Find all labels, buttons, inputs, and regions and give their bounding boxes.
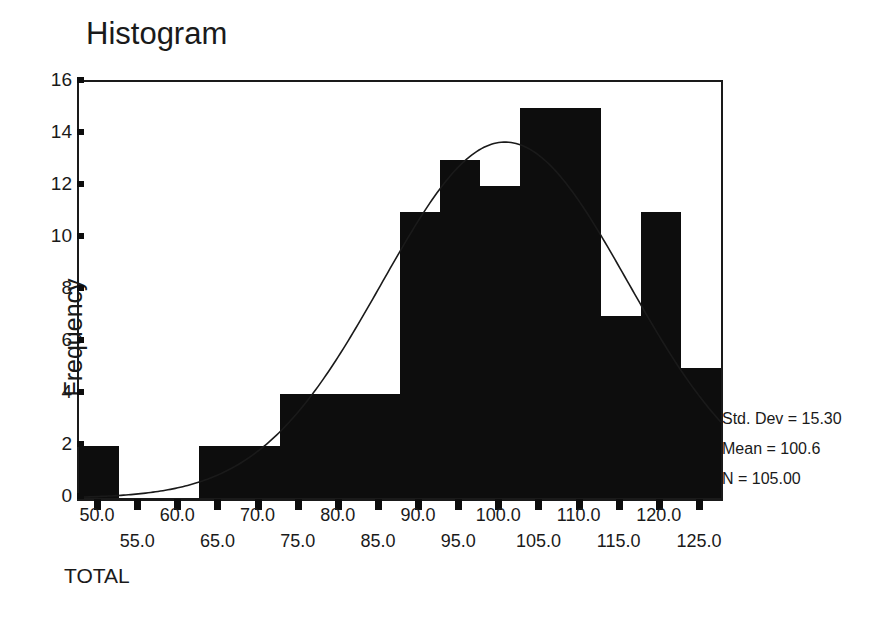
x-tick-label: 75.0 [280,531,315,552]
histogram-figure: Histogram Frequency 0246810121416 50.060… [0,0,886,637]
y-tick-mark [77,389,84,395]
mean-text: Mean = 100.6 [722,434,882,464]
x-tick-label: 95.0 [441,531,476,552]
x-tick-label: 105.0 [516,531,561,552]
x-axis-title: TOTAL [64,564,130,588]
x-tick-mark [375,499,382,510]
y-tick-mark [77,337,84,343]
y-tick-label: 4 [32,381,72,403]
y-tick-label: 6 [32,329,72,351]
y-tick-label: 8 [32,277,72,299]
y-tick-mark [77,77,84,83]
y-tick-mark [77,129,84,135]
y-tick-mark [77,181,84,187]
x-tick-label: 70.0 [240,505,275,526]
x-tick-label: 50.0 [80,505,115,526]
x-tick-label: 110.0 [557,505,601,526]
x-tick-label: 90.0 [401,505,436,526]
x-tick-mark [295,499,302,510]
y-tick-label: 10 [32,225,72,247]
y-axis-ticks: 0246810121416 [22,80,72,496]
y-tick-mark [77,493,84,499]
x-tick-label: 80.0 [320,505,355,526]
normal-curve-svg [79,82,721,498]
y-tick-label: 16 [32,69,72,91]
std-dev-text: Std. Dev = 15.30 [722,404,882,434]
y-tick-mark [77,441,84,447]
x-tick-mark [214,499,221,510]
x-tick-label: 120.0 [636,505,681,526]
x-tick-label: 85.0 [360,531,395,552]
x-tick-label: 125.0 [676,531,721,552]
x-tick-mark [696,499,703,510]
x-tick-label: 55.0 [120,531,155,552]
x-tick-mark [134,499,141,510]
x-tick-label: 115.0 [597,531,641,552]
y-tick-mark [77,285,84,291]
x-tick-label: 100.0 [476,505,521,526]
x-tick-label: 60.0 [160,505,195,526]
y-tick-mark [77,233,84,239]
x-tick-mark [535,499,542,510]
x-tick-mark [616,499,623,510]
normal-curve-overlay [79,82,721,498]
y-tick-label: 12 [32,173,72,195]
y-tick-label: 2 [32,433,72,455]
x-tick-mark [455,499,462,510]
plot-area [77,80,723,501]
page-title: Histogram [86,16,227,52]
statistics-annotation: Std. Dev = 15.30 Mean = 100.6 N = 105.00 [722,404,882,494]
y-tick-label: 14 [32,121,72,143]
normal-curve-path [79,142,721,497]
x-tick-label: 65.0 [200,531,235,552]
n-text: N = 105.00 [722,464,882,494]
y-tick-label: 0 [32,485,72,507]
